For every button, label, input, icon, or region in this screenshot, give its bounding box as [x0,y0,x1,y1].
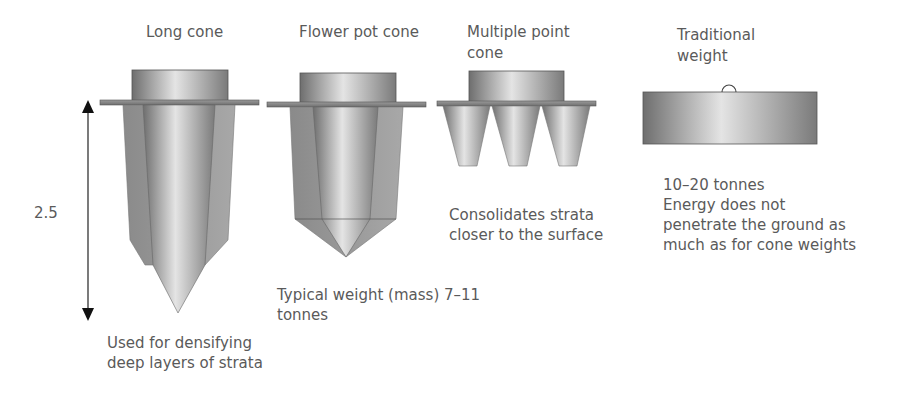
flower-pot-cone-figure [267,73,426,257]
long-cone-title: Long cone [146,23,223,42]
title-line: Traditional [677,26,755,45]
caption-line: tonnes [277,306,328,325]
title-line: cone [467,44,503,63]
title-line: weight [677,47,728,66]
caption-line: Typical weight (mass) 7–11 [277,286,480,305]
long-cone-figure [100,70,259,313]
caption-line: deep layers of strata [107,354,263,373]
flower-pot-cone-title: Flower pot cone [299,23,419,42]
caption-line: much as for cone weights [663,236,856,255]
traditional-weight-figure [643,85,817,144]
dimension-arrow [82,100,94,321]
dimension-label: 2.5 [34,204,58,223]
caption-line: Energy does not [663,196,785,215]
caption-line: Consolidates strata [449,206,594,225]
multiple-point-cone-figure [437,71,596,166]
caption-line: 10–20 tonnes [663,176,765,195]
caption-line: penetrate the ground as [663,216,846,235]
title-line: Multiple point [467,23,570,42]
caption-line: closer to the surface [449,226,603,245]
caption-line: Used for densifying [107,334,252,353]
